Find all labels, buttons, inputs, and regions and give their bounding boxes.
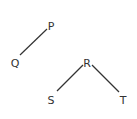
node-p: P: [48, 20, 55, 33]
edge-p-q: [20, 29, 47, 55]
tree-diagram: P Q R S T: [0, 0, 137, 119]
node-t: T: [119, 94, 127, 107]
node-r: R: [83, 57, 91, 70]
node-s: S: [48, 94, 55, 107]
edge-r-s: [57, 65, 83, 91]
node-q: Q: [11, 57, 20, 70]
edge-r-t: [92, 65, 119, 92]
